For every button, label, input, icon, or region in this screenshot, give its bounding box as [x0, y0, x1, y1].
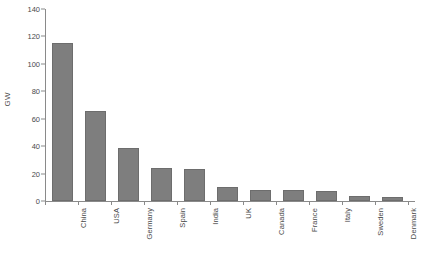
y-axis-tick-label: 80: [0, 87, 40, 96]
bar-chart: GW 020406080100120140 ChinaUSAGermanySpa…: [0, 0, 424, 256]
x-axis-tick-mark: [78, 201, 79, 205]
y-axis-tick-mark: [41, 91, 45, 92]
y-axis-tick-mark: [41, 63, 45, 64]
x-axis-tick-mark: [342, 201, 343, 205]
bar: [184, 169, 205, 201]
bar-group: [79, 9, 112, 201]
x-axis-tick-mark: [177, 201, 178, 205]
x-axis-tick-label: Germany: [145, 206, 154, 239]
y-axis-tick-label: 40: [0, 142, 40, 151]
bar-group: [277, 9, 310, 201]
x-axis-tick-label: Italy: [343, 206, 352, 239]
x-axis-tick-mark: [276, 201, 277, 205]
bar: [316, 191, 337, 201]
x-axis-tick-label: Canada: [277, 206, 286, 239]
y-axis-tick-mark: [41, 173, 45, 174]
y-axis-tick-label: 120: [0, 32, 40, 41]
y-axis-tick-mark: [41, 36, 45, 37]
bar: [52, 43, 73, 201]
y-axis-tick-label: 20: [0, 169, 40, 178]
y-axis-tick-mark: [41, 146, 45, 147]
bar-group: [310, 9, 343, 201]
x-axis-tick-label: China: [79, 206, 88, 239]
bar-group: [343, 9, 376, 201]
y-axis-tick-label: 140: [0, 5, 40, 14]
bar: [250, 190, 271, 201]
bar: [85, 111, 106, 202]
x-axis-tick-mark: [408, 201, 409, 205]
plot-area: [46, 9, 415, 201]
y-axis-tick-label: 60: [0, 114, 40, 123]
x-axis-tick-label: Spain: [178, 206, 187, 239]
bar-group: [376, 9, 409, 201]
bar: [118, 148, 139, 201]
x-axis-tick-label: UK: [244, 206, 253, 239]
bar: [382, 197, 403, 201]
bar-group: [211, 9, 244, 201]
bar-group: [178, 9, 211, 201]
x-axis-tick-mark: [45, 201, 46, 205]
x-axis-tick-label: Sweden: [376, 206, 385, 239]
bar-group: [112, 9, 145, 201]
x-axis-tick-mark: [309, 201, 310, 205]
x-axis-tick-label: Denmark: [409, 206, 418, 239]
x-axis-line: [45, 201, 415, 202]
x-axis-tick-label: India: [211, 206, 220, 239]
x-axis-tick-mark: [243, 201, 244, 205]
x-axis-tick-mark: [144, 201, 145, 205]
y-axis-tick-mark: [41, 118, 45, 119]
y-axis-tick-label: 0: [0, 197, 40, 206]
bar-group: [145, 9, 178, 201]
bar: [349, 196, 370, 201]
x-axis-tick-mark: [111, 201, 112, 205]
bar: [283, 190, 304, 201]
bar: [217, 187, 238, 201]
x-axis-tick-mark: [375, 201, 376, 205]
x-axis-tick-label: USA: [112, 206, 121, 239]
bar: [151, 168, 172, 201]
bar-group: [46, 9, 79, 201]
x-axis-tick-mark: [210, 201, 211, 205]
y-axis-tick-label: 100: [0, 59, 40, 68]
bar-group: [244, 9, 277, 201]
x-axis-tick-label: France: [310, 206, 319, 239]
y-axis-tick-mark: [41, 9, 45, 10]
